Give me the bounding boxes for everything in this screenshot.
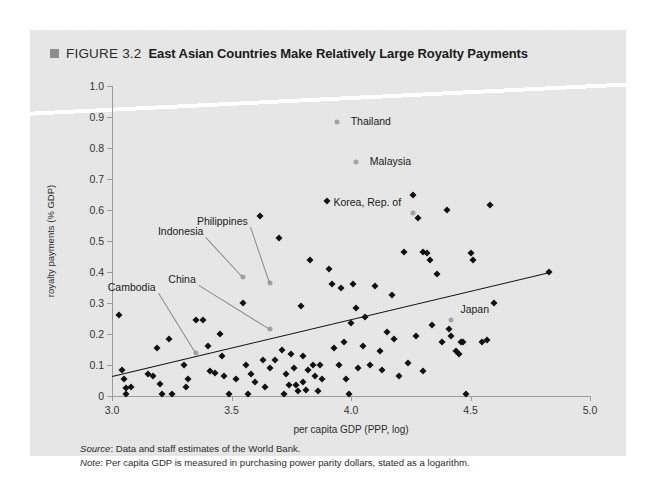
data-point	[120, 375, 127, 382]
y-axis-tick	[107, 86, 112, 87]
data-point	[395, 372, 402, 379]
y-axis-tick-label: 0.7	[89, 173, 104, 185]
data-point	[455, 351, 462, 358]
data-point	[352, 304, 359, 311]
data-point	[338, 284, 345, 291]
source-label: Source	[80, 443, 110, 454]
data-point	[359, 343, 366, 350]
y-axis-tick-label: 0.6	[89, 204, 104, 216]
y-axis-tick-label: 0.5	[89, 235, 104, 247]
x-axis-tick-label: 3.5	[224, 404, 239, 416]
y-axis-tick	[107, 334, 112, 335]
data-point	[218, 352, 225, 359]
data-point	[328, 281, 335, 288]
data-point	[414, 214, 421, 221]
x-axis-tick	[471, 396, 472, 401]
note-line: Note: Per capita GDP is measured in purc…	[80, 456, 470, 470]
x-axis-tick	[351, 396, 352, 401]
data-point	[400, 248, 407, 255]
data-point	[410, 191, 417, 198]
annotation-label-indonesia: Indonesia	[158, 225, 204, 237]
data-point	[221, 372, 228, 379]
data-point	[285, 382, 292, 389]
data-point	[429, 321, 436, 328]
data-point	[211, 369, 218, 376]
x-axis-tick-label: 3.0	[105, 404, 120, 416]
data-point	[383, 329, 390, 336]
data-point	[405, 360, 412, 367]
y-axis-tick	[107, 303, 112, 304]
note-label: Note	[80, 457, 100, 468]
data-point	[302, 386, 309, 393]
y-axis-tick	[107, 365, 112, 366]
data-point	[199, 317, 206, 324]
data-point	[340, 338, 347, 345]
data-point	[376, 348, 383, 355]
data-point	[350, 281, 357, 288]
figure-panel: FIGURE 3.2 East Asian Countries Make Rel…	[30, 30, 626, 456]
data-point	[252, 379, 259, 386]
data-point	[309, 361, 316, 368]
data-point	[443, 206, 450, 213]
highlighted-data-point-thailand	[334, 119, 339, 124]
x-axis-tick-label: 4.5	[463, 404, 478, 416]
leader-line	[158, 293, 196, 354]
data-point	[300, 352, 307, 359]
note-text: : Per capita GDP is measured in purchasi…	[100, 457, 469, 468]
y-axis	[112, 86, 113, 396]
leader-line	[206, 237, 244, 278]
y-axis-title: royalty payments (% GDP)	[45, 185, 56, 297]
y-axis-tick	[107, 241, 112, 242]
data-point	[242, 361, 249, 368]
data-point	[445, 326, 452, 333]
data-point	[460, 338, 467, 345]
data-point	[247, 371, 254, 378]
data-point	[276, 234, 283, 241]
x-axis-tick	[232, 396, 233, 401]
y-axis-tick	[107, 117, 112, 118]
annotation-label-thailand: Thailand	[351, 115, 391, 127]
data-point	[183, 383, 190, 390]
annotation-label-philippines: Philippines	[197, 215, 248, 227]
y-axis-tick-label: 0.1	[89, 359, 104, 371]
data-point	[290, 365, 297, 372]
data-point	[300, 379, 307, 386]
leader-line	[198, 285, 270, 330]
data-point	[166, 335, 173, 342]
data-point	[233, 375, 240, 382]
figure-notes: Source: Data and staff estimates of the …	[80, 442, 470, 471]
highlighted-data-point-malaysia	[353, 159, 358, 164]
data-point	[278, 346, 285, 353]
y-axis-tick-label: 0.3	[89, 297, 104, 309]
data-point	[271, 357, 278, 364]
data-point	[390, 335, 397, 342]
data-point	[154, 344, 161, 351]
y-axis-tick-label: 1.0	[89, 80, 104, 92]
data-point	[295, 388, 302, 395]
y-axis-tick	[107, 179, 112, 180]
data-point	[336, 361, 343, 368]
data-point	[379, 366, 386, 373]
y-axis-tick	[107, 148, 112, 149]
data-point	[180, 361, 187, 368]
data-point	[343, 375, 350, 382]
annotation-label-japan: Japan	[460, 303, 489, 315]
data-point	[304, 366, 311, 373]
data-point	[314, 388, 321, 395]
data-point	[185, 375, 192, 382]
y-axis-tick-label: 0.8	[89, 142, 104, 154]
figure-number: FIGURE 3.2	[66, 46, 142, 61]
leader-line	[250, 227, 270, 283]
data-point	[288, 351, 295, 358]
annotation-label-cambodia: Cambodia	[108, 281, 156, 293]
data-point	[316, 361, 323, 368]
data-point	[426, 256, 433, 263]
data-point	[204, 343, 211, 350]
data-point	[128, 383, 135, 390]
data-point	[261, 383, 268, 390]
data-point	[491, 299, 498, 306]
data-point	[448, 332, 455, 339]
data-point	[469, 256, 476, 263]
x-axis-tick-label: 5.0	[583, 404, 598, 416]
data-point	[116, 312, 123, 319]
